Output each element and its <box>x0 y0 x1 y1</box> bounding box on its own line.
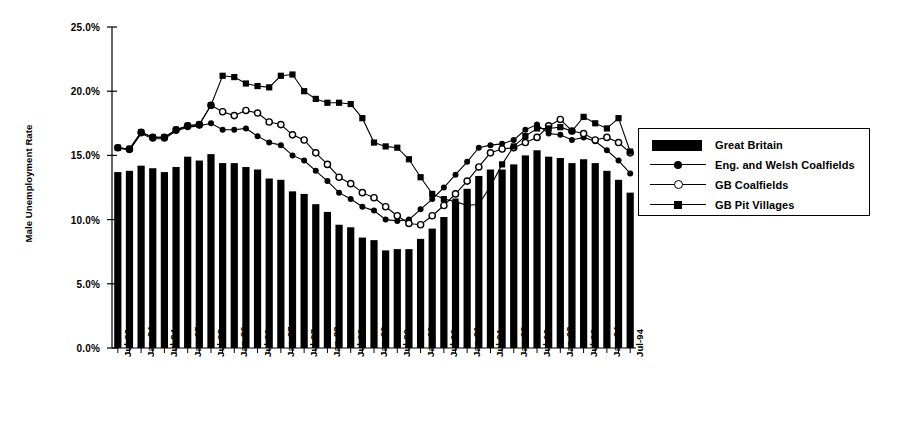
legend-line-sample-icon <box>650 178 706 192</box>
x-axis-tick-label: Jan-85 <box>192 326 203 357</box>
legend-line-sample-icon <box>650 158 706 172</box>
legend-item-label: Eng. and Welsh Coalfields <box>715 159 855 171</box>
x-axis-tick-label: Jul-89 <box>401 329 412 357</box>
legend-item-label: GB Coalfields <box>715 179 788 191</box>
legend-item[interactable]: GB Coalfields <box>639 175 869 195</box>
legend-item[interactable]: GB Pit Villages <box>639 195 869 215</box>
chart-page: Male Unemployment Rate 0.0%5.0%10.0%15.0… <box>0 0 905 427</box>
filled-circle-marker-icon <box>674 161 682 169</box>
x-axis-tick-label: Jul-83 <box>122 329 133 357</box>
x-axis-tick-label: Jul-93 <box>588 329 599 357</box>
legend-line-sample-icon <box>650 198 706 212</box>
x-axis-tick-label: Jan-94 <box>611 326 622 357</box>
x-axis-tick-label: Jan-90 <box>425 326 436 357</box>
x-axis-tick-label: Jul-88 <box>355 329 366 357</box>
x-axis-tick-label: Jul-92 <box>541 329 552 357</box>
x-axis-tick-labels: Jul-83Jan-84Jul-84Jan-85Jul-85Jan-86Jul-… <box>0 0 660 427</box>
chart-legend: Great BritainEng. and Welsh CoalfieldsGB… <box>638 128 870 216</box>
legend-item[interactable]: Eng. and Welsh Coalfields <box>639 155 869 175</box>
legend-item-label: Great Britain <box>715 139 783 151</box>
x-axis-tick-label: Jan-87 <box>285 326 296 357</box>
bar-swatch <box>652 140 702 151</box>
x-axis-tick-label: Jan-86 <box>238 326 249 357</box>
x-axis-tick-label: Jul-90 <box>448 329 459 357</box>
plot-area: Male Unemployment Rate 0.0%5.0%10.0%15.0… <box>0 0 660 427</box>
x-axis-tick-label: Jul-91 <box>494 329 505 357</box>
open-circle-marker-icon <box>674 180 683 189</box>
x-axis-tick-label: Jul-86 <box>262 329 273 357</box>
filled-square-marker-icon <box>674 201 682 209</box>
x-axis-tick-label: Jul-84 <box>168 329 179 357</box>
x-axis-tick-label: Jul-87 <box>308 329 319 357</box>
x-axis-tick-label: Jul-94 <box>634 329 645 357</box>
x-axis-tick-label: Jan-84 <box>145 326 156 357</box>
legend-item[interactable]: Great Britain <box>639 135 869 155</box>
x-axis-tick-label: Jul-85 <box>215 329 226 357</box>
x-axis-tick-label: Jan-89 <box>378 326 389 357</box>
x-axis-tick-label: Jan-88 <box>331 326 342 357</box>
legend-item-label: GB Pit Villages <box>715 199 795 211</box>
x-axis-tick-label: Jan-91 <box>471 326 482 357</box>
legend-bar-swatch-icon <box>650 138 706 152</box>
x-axis-tick-label: Jan-93 <box>564 326 575 357</box>
x-axis-tick-label: Jan-92 <box>518 326 529 357</box>
